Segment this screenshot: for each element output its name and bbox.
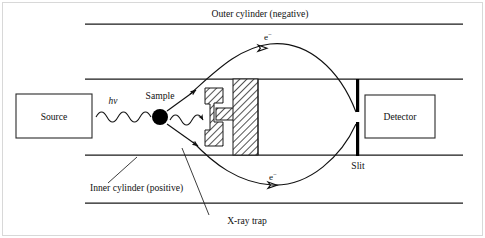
xray-trap-stem [216, 108, 234, 120]
xray-trap-label: X-ray trap [227, 215, 267, 226]
slit-bar-lower [356, 122, 359, 156]
slit-label: Slit [351, 160, 365, 171]
incident-photon-wave [96, 112, 151, 122]
electron-label-upper: e− [264, 31, 272, 42]
inner-cylinder-leader-line [108, 157, 137, 183]
electron-arrowhead-upper [258, 45, 267, 51]
diagram-canvas: Outer cylinder (negative) Inner cylinder… [0, 0, 485, 238]
slit-bar-upper [356, 79, 359, 112]
scattered-photon-wave [170, 115, 203, 125]
detector-label: Detector [383, 111, 417, 122]
electron-label-upper-sup: − [268, 31, 272, 38]
photon-energy-label: hv [109, 96, 119, 106]
xray-trap-leader-line [182, 148, 209, 215]
xps-diagram-figure: Outer cylinder (negative) Inner cylinder… [0, 0, 485, 238]
inner-cylinder-label: Inner cylinder (positive) [90, 182, 183, 194]
source-label: Source [41, 111, 68, 122]
electron-label-lower: e− [269, 171, 277, 182]
sample-point [152, 109, 168, 125]
xray-trap-block [233, 79, 258, 155]
electron-label-lower-sup: − [273, 171, 277, 178]
sample-label: Sample [146, 90, 175, 101]
outer-cylinder-label: Outer cylinder (negative) [212, 8, 309, 20]
